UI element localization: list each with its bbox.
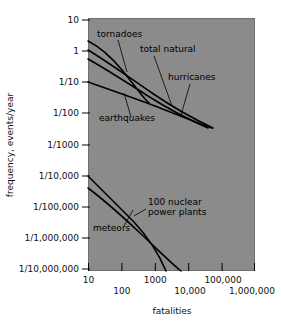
y-tick-label: 1 [73, 46, 79, 56]
y-tick-label: 1/100,000 [33, 202, 79, 212]
plot-area-background [88, 18, 255, 271]
y-tick-label: 1/10,000 [39, 171, 80, 181]
risk-frequency-chart-figure: 10 1 1/10 1/100 1/1000 1/10,000 1/100,00… [0, 0, 281, 328]
y-tick-label: 10 [68, 15, 80, 25]
label-tornadoes: tornadoes [97, 29, 143, 39]
x-tick-label: 1000 [144, 275, 167, 285]
y-tick-label: 1/10,000,000 [19, 264, 80, 274]
label-nuclear-line2: power plants [148, 207, 207, 217]
x-tick-label: 10,000 [174, 286, 206, 296]
y-tick-label: 1/10 [59, 77, 79, 87]
x-tick-label: 100 [113, 286, 130, 296]
x-axis-title: fatalities [153, 306, 192, 316]
y-tick-label: 1/100 [53, 108, 79, 118]
label-earthquakes: earthquakes [99, 113, 155, 123]
y-tick-label: 1/1000 [47, 140, 79, 150]
label-meteors: meteors [93, 223, 131, 233]
y-axis-tick-labels: 10 1 1/10 1/100 1/1000 1/10,000 1/100,00… [19, 15, 80, 274]
label-total-natural: total natural [140, 44, 196, 54]
x-tick-label: 10 [83, 275, 95, 285]
x-axis-tick-labels: 10 100 1000 10,000 100,000 1,000,000 [83, 275, 275, 296]
y-axis-title: frequency, events/year [5, 93, 15, 198]
x-tick-label: 100,000 [204, 275, 241, 285]
y-tick-label: 1/1,000,000 [24, 233, 79, 243]
label-hurricanes: hurricanes [168, 72, 216, 82]
label-nuclear-line1: 100 nuclear [148, 197, 202, 207]
chart-canvas: 10 1 1/10 1/100 1/1000 1/10,000 1/100,00… [0, 0, 281, 328]
x-tick-label: 1,000,000 [229, 286, 275, 296]
